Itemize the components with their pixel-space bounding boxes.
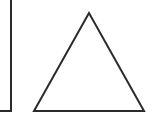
triangle-shape (34, 13, 144, 111)
shapes-canvas (0, 0, 157, 121)
square-shape (0, 0, 11, 111)
